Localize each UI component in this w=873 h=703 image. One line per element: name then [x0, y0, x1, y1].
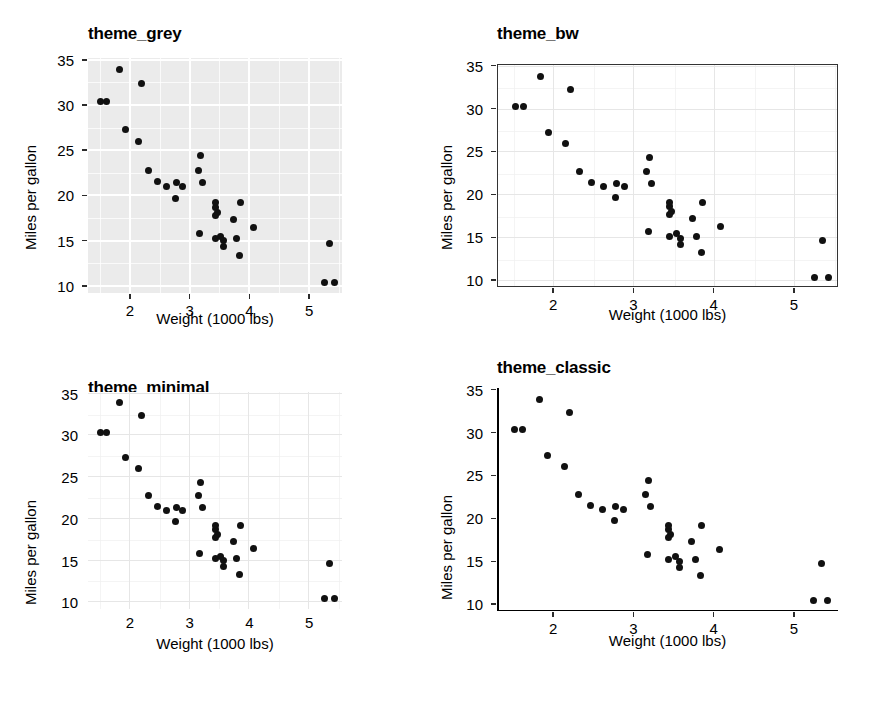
- panel-title-theme-bw: theme_bw: [497, 24, 579, 44]
- x-tick-label: 4: [245, 614, 253, 631]
- x-axis-line: [497, 610, 838, 612]
- data-point: [519, 426, 526, 433]
- x-tick-mark: [633, 612, 635, 617]
- data-point: [621, 183, 628, 190]
- data-point: [138, 412, 145, 419]
- y-tick-label: 30: [50, 427, 78, 444]
- y-tick-label: 10: [50, 594, 78, 611]
- data-point: [697, 572, 704, 579]
- y-tick-mark: [491, 518, 496, 520]
- grid-line-minor-horizontal: [88, 581, 342, 582]
- data-point: [818, 560, 825, 567]
- x-tick-label: 3: [629, 296, 637, 313]
- x-tick-label: 2: [549, 296, 557, 313]
- x-tick-label: 4: [245, 302, 253, 319]
- data-point: [599, 506, 606, 513]
- plot-area-theme-classic: [497, 388, 838, 611]
- data-point: [237, 522, 244, 529]
- x-tick-mark: [793, 288, 795, 293]
- grid-line-major-horizontal: [498, 280, 837, 281]
- data-point: [236, 571, 243, 578]
- y-tick-label: 35: [46, 51, 74, 68]
- x-tick-label: 2: [126, 302, 134, 319]
- y-tick-label: 20: [50, 510, 78, 527]
- grid-line-minor-vertical: [835, 65, 836, 286]
- x-tick-label: 4: [709, 620, 717, 637]
- x-tick-mark: [308, 294, 310, 299]
- x-tick-mark: [713, 288, 715, 293]
- x-tick-label: 3: [185, 614, 193, 631]
- data-point: [212, 555, 219, 562]
- data-point: [195, 492, 202, 499]
- data-point: [665, 556, 672, 563]
- data-point: [220, 243, 227, 250]
- panel-theme-classic: theme_classic Miles per gallon Weight (1…: [440, 350, 873, 703]
- data-point: [642, 491, 649, 498]
- data-point: [645, 477, 652, 484]
- data-point: [666, 233, 673, 240]
- y-axis-title: Miles per gallon: [22, 500, 39, 605]
- grid-line-minor-vertical: [675, 65, 676, 286]
- grid-line-minor-horizontal: [88, 415, 342, 416]
- data-point: [693, 233, 700, 240]
- y-tick-mark: [491, 389, 496, 391]
- data-point: [250, 224, 257, 231]
- x-tick-mark: [552, 612, 554, 617]
- data-point: [644, 551, 651, 558]
- data-point: [645, 228, 652, 235]
- grid-line-minor-vertical: [279, 392, 280, 609]
- grid-line-minor-vertical: [594, 65, 595, 286]
- grid-line-major-vertical: [129, 58, 131, 293]
- y-tick-label: 15: [455, 229, 483, 246]
- data-point: [647, 503, 654, 510]
- data-point: [163, 183, 170, 190]
- y-axis-title: Miles per gallon: [438, 495, 455, 600]
- y-tick-label: 10: [46, 277, 74, 294]
- y-tick-label: 15: [46, 232, 74, 249]
- data-point: [135, 138, 142, 145]
- grid-line-major-vertical: [308, 392, 309, 609]
- data-point: [250, 545, 257, 552]
- data-point: [567, 86, 574, 93]
- data-point: [326, 240, 333, 247]
- data-point: [587, 502, 594, 509]
- data-point: [676, 564, 683, 571]
- data-point: [612, 194, 619, 201]
- data-point: [561, 463, 568, 470]
- grid-line-major-horizontal: [88, 149, 342, 151]
- data-point: [810, 597, 817, 604]
- x-tick-mark: [713, 612, 715, 617]
- grid-line-major-vertical: [129, 392, 130, 609]
- y-tick-mark: [491, 279, 496, 281]
- grid-line-major-horizontal: [498, 151, 837, 152]
- x-tick-label: 5: [790, 296, 798, 313]
- plot-area-theme-bw: [497, 64, 838, 287]
- data-point: [520, 103, 527, 110]
- x-tick-label: 3: [629, 620, 637, 637]
- y-tick-label: 15: [50, 552, 78, 569]
- data-point: [536, 396, 543, 403]
- data-point: [230, 216, 237, 223]
- grid-line-minor-vertical: [339, 58, 340, 293]
- x-tick-label: 2: [549, 620, 557, 637]
- grid-line-minor-vertical: [100, 392, 101, 609]
- x-axis-title: Weight (1000 lbs): [88, 635, 342, 652]
- data-point: [819, 237, 826, 244]
- data-point: [197, 479, 204, 486]
- grid-line-major-vertical: [308, 58, 310, 293]
- data-point: [537, 73, 544, 80]
- panel-title-theme-grey: theme_grey: [88, 24, 181, 44]
- grid-line-minor-vertical: [279, 58, 280, 293]
- data-point: [237, 199, 244, 206]
- x-tick-label: 5: [790, 620, 798, 637]
- data-point: [698, 249, 705, 256]
- data-point: [326, 560, 333, 567]
- y-tick-label: 15: [455, 553, 483, 570]
- grid-line-minor-vertical: [160, 392, 161, 609]
- data-point: [562, 140, 569, 147]
- grid-line-minor-vertical: [160, 58, 161, 293]
- grid-line-major-horizontal: [498, 109, 837, 110]
- data-point: [692, 556, 699, 563]
- data-point: [611, 517, 618, 524]
- data-point: [511, 426, 518, 433]
